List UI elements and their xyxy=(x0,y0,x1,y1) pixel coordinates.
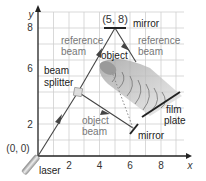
reference-beam-right-label-2: beam xyxy=(138,46,163,57)
reference-beam-right-label-1: reference xyxy=(138,35,181,46)
mirror-top-label: mirror xyxy=(133,18,160,29)
x-tick-4: 4 xyxy=(97,160,103,171)
laser-label: laser xyxy=(39,165,61,176)
mirror-bottom-label: mirror xyxy=(138,130,165,141)
y-tick-6: 6 xyxy=(27,63,33,74)
reference-beam-left-label-1: reference xyxy=(61,35,104,46)
film-plate-label-1: film xyxy=(166,104,182,115)
object-beam-label-1: object xyxy=(82,115,109,126)
bottom-mirror-shape xyxy=(130,124,138,134)
y-tick-8: 8 xyxy=(27,22,33,33)
x-tick-2: 2 xyxy=(66,160,72,171)
origin-label: (0, 0) xyxy=(6,143,29,154)
beam-splitter-label-1: beam xyxy=(44,65,69,76)
x-tick-8: 8 xyxy=(158,160,164,171)
x-tick-6: 6 xyxy=(127,160,133,171)
object-beam-label-2: beam xyxy=(82,126,107,137)
beam-arrow-icon xyxy=(55,114,62,124)
x-axis-arrow-icon xyxy=(186,153,192,159)
holography-diagram: 2 4 6 8 x 2 6 8 y (0, 0) xyxy=(0,0,206,181)
y-axis-label: y xyxy=(28,9,35,20)
beam-splitter-shape xyxy=(73,87,82,96)
film-plate-label-2: plate xyxy=(164,115,186,126)
laser-device xyxy=(21,154,40,175)
y-tick-2: 2 xyxy=(27,119,33,130)
object-label: object xyxy=(101,50,128,61)
x-axis-label: x xyxy=(187,160,194,171)
reference-beam-left-label-2: beam xyxy=(61,46,86,57)
y-axis-arrow-icon xyxy=(35,5,41,12)
beam-splitter-label-2: splitter xyxy=(44,77,74,88)
point-label-5-8: (5, 8) xyxy=(102,13,128,25)
